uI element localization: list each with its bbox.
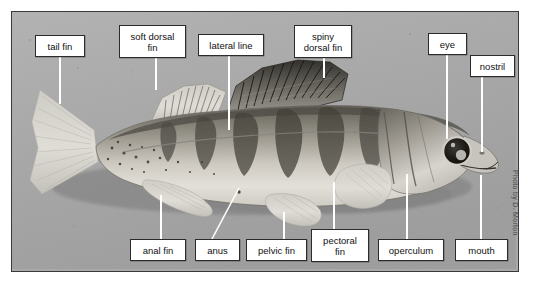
leader-line-pelvic-fin [283,212,285,239]
label-text-anus: anus [207,245,228,256]
photo-credit: Photo by D. Morton [505,170,519,270]
label-operculum[interactable]: operculum [378,239,444,261]
label-text-mouth: mouth [468,245,494,256]
label-text-operculum: operculum [389,245,433,256]
leader-line-pectoral-fin [333,182,335,229]
label-text-pelvic-fin: pelvic fin [258,245,295,256]
label-text-pectoral-fin: pectoral fin [323,235,357,257]
leader-line-operculum [406,174,408,239]
label-anus[interactable]: anus [195,239,240,261]
label-pelvic-fin[interactable]: pelvic fin [246,239,307,261]
label-pectoral-fin[interactable]: pectoral fin [311,229,369,262]
fish-anatomy-figure: tail finsoft dorsal finlateral linespiny… [0,0,545,283]
leader-line-mouth [480,175,482,239]
label-mouth[interactable]: mouth [455,239,508,261]
